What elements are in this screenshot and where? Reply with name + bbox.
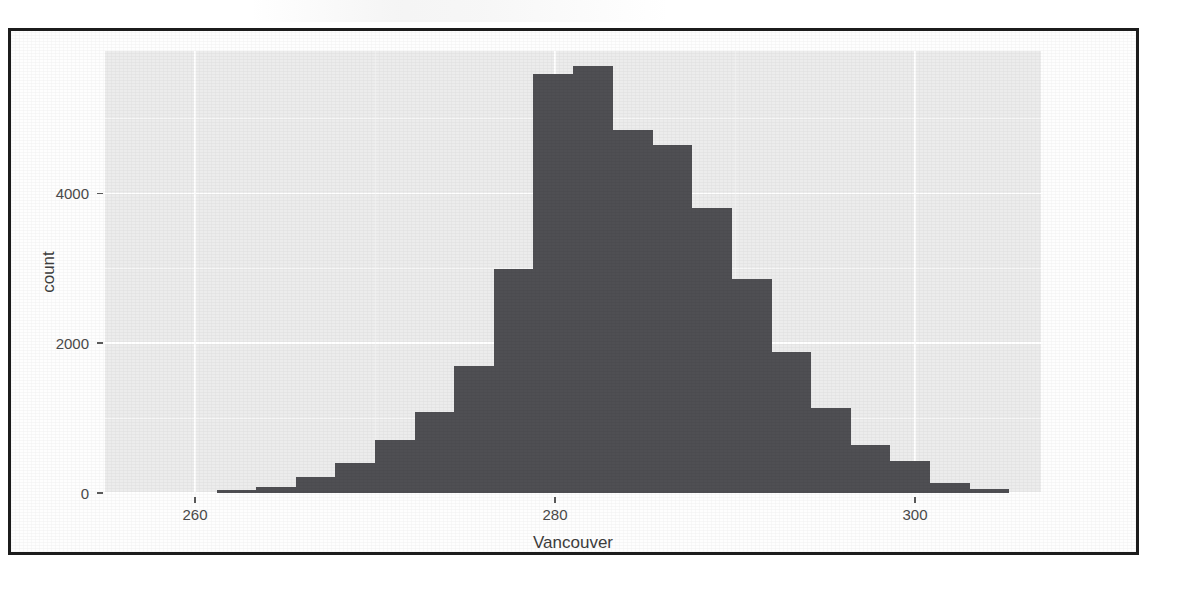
x-tick-label: 280	[542, 506, 567, 523]
histogram-bar	[692, 208, 732, 493]
histogram-bar	[494, 269, 534, 493]
histogram-bar	[335, 463, 375, 493]
x-tick-label: 300	[902, 506, 927, 523]
histogram-bar	[771, 352, 811, 493]
x-tick-mark	[554, 497, 555, 503]
y-tick-mark	[97, 492, 103, 493]
x-tick-mark	[194, 497, 195, 503]
histogram-bar	[217, 490, 257, 493]
x-tick-mark	[914, 497, 915, 503]
histogram-bar	[929, 483, 969, 493]
x-axis-title: Vancouver	[105, 533, 1041, 553]
x-tick-label: 260	[182, 506, 207, 523]
histogram-bar	[890, 461, 930, 493]
y-tick-label: 0	[27, 485, 89, 502]
y-tick-mark	[97, 193, 103, 194]
histogram-bar	[573, 66, 613, 493]
y-axis-title: count	[39, 202, 59, 342]
histogram-bar	[850, 445, 890, 493]
histogram-bar	[652, 145, 692, 493]
histogram-bar	[811, 408, 851, 493]
histogram-bar	[613, 130, 653, 493]
y-tick-mark	[97, 342, 103, 343]
histogram-bar	[296, 477, 336, 493]
histogram-bar	[533, 74, 573, 493]
plot-panel	[105, 51, 1041, 493]
histogram-bar	[731, 279, 771, 493]
y-tick-label: 4000	[27, 185, 89, 202]
histogram-bar	[454, 366, 494, 493]
histogram-bar	[256, 487, 296, 493]
histogram-bar	[375, 440, 415, 493]
histogram-bar	[969, 489, 1009, 493]
page-scan-smudge	[250, 0, 670, 22]
histogram-bar	[415, 412, 455, 493]
figure-frame: 260280300 020004000 Vancouver count	[8, 28, 1139, 555]
